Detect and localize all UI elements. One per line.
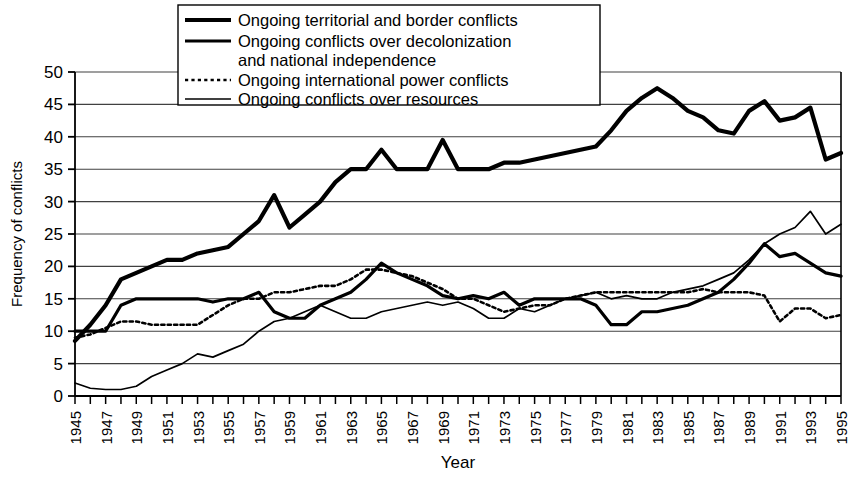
x-axis-title-text: Year	[441, 453, 476, 472]
y-tick-label-15: 15	[44, 290, 63, 309]
y-axis-title-text: Frequency of conflicts	[8, 161, 25, 307]
x-tick-label-1949: 1949	[128, 411, 145, 444]
x-tick-label-1967: 1967	[404, 411, 421, 444]
x-tick-label-1965: 1965	[373, 411, 390, 444]
y-tick-label-25: 25	[44, 225, 63, 244]
x-tick-label-1953: 1953	[190, 411, 207, 444]
y-tick-label-30: 30	[44, 193, 63, 212]
x-tick-label-1973: 1973	[496, 411, 513, 444]
y-tick-label-40: 40	[44, 128, 63, 147]
x-tick-labels: 1945194719491951195319551957195919611963…	[67, 411, 850, 444]
legend-label-2: Ongoing international power conflicts	[238, 71, 509, 89]
x-tick-label-1961: 1961	[312, 411, 329, 444]
y-tick-label-5: 5	[54, 355, 63, 374]
y-tick-label-0: 0	[54, 387, 63, 406]
y-tick-labels: 05101520253035404550	[44, 63, 75, 406]
series-line-3	[75, 211, 841, 389]
x-tick-label-1969: 1969	[435, 411, 452, 444]
x-tick-label-1951: 1951	[159, 411, 176, 444]
x-tick-label-1983: 1983	[649, 411, 666, 444]
x-tick-label-1979: 1979	[588, 411, 605, 444]
x-tick-label-1957: 1957	[251, 411, 268, 444]
legend-label-3: Ongoing conflicts over resources	[238, 90, 478, 108]
x-tick-label-1955: 1955	[220, 411, 237, 444]
y-tick-label-45: 45	[44, 95, 63, 114]
data-series	[75, 88, 841, 389]
y-tick-label-35: 35	[44, 160, 63, 179]
legend-label-1: Ongoing conflicts over decolonization	[238, 32, 511, 50]
x-tick-label-1971: 1971	[465, 411, 482, 444]
x-tick-label-1959: 1959	[281, 411, 298, 444]
legend: Ongoing territorial and border conflicts…	[178, 5, 600, 108]
x-tick-label-1981: 1981	[619, 411, 636, 444]
x-tick-label-1989: 1989	[741, 411, 758, 444]
legend-label-0: Ongoing territorial and border conflicts	[238, 11, 518, 29]
legend-label-1-line2: and national independence	[238, 51, 436, 69]
x-tick-label-1947: 1947	[98, 411, 115, 444]
series-line-2	[75, 270, 841, 338]
y-tick-label-10: 10	[44, 322, 63, 341]
series-line-0	[75, 88, 841, 341]
x-tick-label-1985: 1985	[680, 411, 697, 444]
y-tick-label-50: 50	[44, 63, 63, 82]
y-tick-label-20: 20	[44, 257, 63, 276]
x-tick-label-1975: 1975	[527, 411, 544, 444]
y-axis-title: Frequency of conflicts	[8, 161, 25, 307]
chart-container: 05101520253035404550 1945194719491951195…	[0, 0, 853, 477]
gridlines	[75, 72, 841, 396]
x-tick-label-1945: 1945	[67, 411, 84, 444]
x-tick-label-1991: 1991	[772, 411, 789, 444]
x-tick-label-1993: 1993	[802, 411, 819, 444]
x-tick-label-1987: 1987	[710, 411, 727, 444]
x-tick-label-1977: 1977	[557, 411, 574, 444]
x-axis-title: Year	[441, 453, 476, 472]
x-tick-marks	[75, 396, 841, 404]
line-chart: 05101520253035404550 1945194719491951195…	[0, 0, 853, 477]
x-tick-label-1995: 1995	[833, 411, 850, 444]
x-tick-label-1963: 1963	[343, 411, 360, 444]
